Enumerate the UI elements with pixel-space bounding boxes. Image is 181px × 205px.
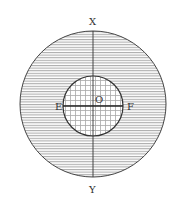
label-y: Y <box>88 184 96 195</box>
label-x: X <box>89 16 97 27</box>
label-e: E <box>55 101 62 112</box>
label-f: F <box>127 101 134 112</box>
label-o: O <box>95 94 103 105</box>
concentric-circles-diagram: X Y E F O <box>0 0 181 205</box>
